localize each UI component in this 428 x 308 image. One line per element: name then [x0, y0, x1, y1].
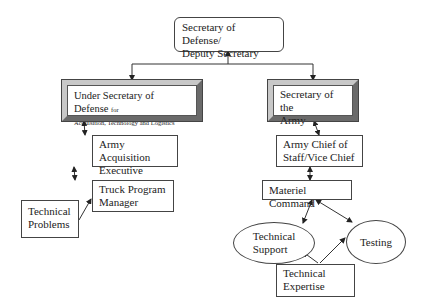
node-army-acquisition-executive: Army Acquisition Executive: [92, 135, 178, 167]
node-army-chief-of-staff: Army Chief of Staff/Vice Chief: [276, 135, 363, 167]
node-label: Army Acquisition: [99, 138, 171, 164]
edge-techexp-testing: [320, 238, 345, 263]
node-label: Expertise: [283, 280, 348, 293]
node-label: Technical: [253, 230, 296, 243]
node-technical-expertise: Technical Expertise: [276, 264, 355, 297]
node-label: Technical: [28, 205, 72, 218]
node-secretary-of-defense: Secretary of Defense/ Deputy Secretary: [174, 17, 284, 52]
node-technical-problems: Technical Problems: [21, 200, 79, 238]
node-label: Problems: [28, 218, 72, 231]
node-label: Deputy Secretary: [182, 47, 276, 60]
node-under-secretary-of-defense: Under Secretary of Defense for Acquisiti…: [62, 80, 202, 121]
node-testing: Testing: [346, 220, 406, 264]
edge-aae-tpm: [74, 167, 75, 180]
node-label: Army: [280, 114, 346, 127]
node-label: Manager: [99, 196, 167, 209]
node-label: Technical: [283, 267, 348, 280]
node-label: Secretary of Defense/: [182, 21, 276, 47]
node-label: Truck Program: [99, 183, 167, 196]
edge-techprob-tpm: [79, 199, 91, 220]
node-sublabel: Acquisition, Technology and Logistics: [74, 116, 190, 129]
node-label: Support: [253, 243, 296, 256]
node-truck-program-manager: Truck Program Manager: [92, 180, 174, 212]
node-label: Materiel Command: [269, 184, 345, 210]
node-label: Army Chief of: [283, 138, 356, 151]
node-materiel-command: Materiel Command: [262, 180, 352, 200]
node-label: Testing: [360, 236, 392, 249]
node-label: Under Secretary of Defense for: [74, 89, 190, 116]
node-label: Staff/Vice Chief: [283, 151, 356, 164]
node-secretary-of-the-army: Secretary of the Army: [268, 80, 358, 121]
node-label: Secretary of the: [280, 88, 346, 114]
node-label: Executive: [99, 164, 171, 177]
node-technical-support: Technical Support: [233, 222, 315, 264]
